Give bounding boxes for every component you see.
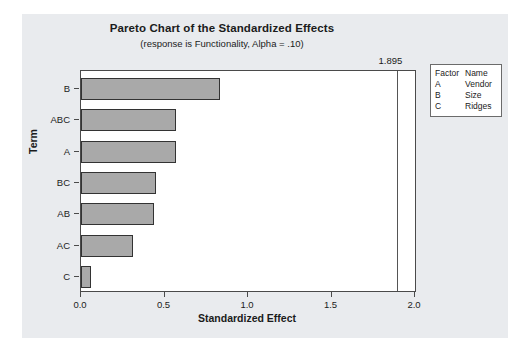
x-axis-tick bbox=[414, 292, 415, 297]
x-axis-tick bbox=[331, 292, 332, 297]
legend-name-A: Vendor bbox=[465, 79, 497, 90]
y-axis-tick bbox=[74, 119, 79, 120]
y-axis-tick bbox=[74, 213, 79, 214]
chart-panel: Pareto Chart of the Standardized Effects… bbox=[22, 14, 508, 338]
bar-AB bbox=[81, 203, 154, 225]
bar-row bbox=[81, 203, 415, 225]
bar-ABC bbox=[81, 109, 176, 131]
y-axis-tick-label: AB bbox=[32, 208, 70, 219]
legend: Factor Name AVendorBSizeCRidges bbox=[430, 64, 502, 117]
y-axis-tick-label: AC bbox=[32, 239, 70, 250]
x-axis-tick-label: 2.0 bbox=[407, 299, 420, 310]
legend-name-C: Ridges bbox=[465, 101, 497, 112]
legend-factor-C: C bbox=[435, 101, 465, 112]
legend-row: AVendor bbox=[435, 79, 497, 90]
x-axis-tick-label: 1.5 bbox=[324, 299, 337, 310]
legend-factor-B: B bbox=[435, 90, 465, 101]
y-axis-tick-label: ABC bbox=[32, 114, 70, 125]
bar-row bbox=[81, 172, 415, 194]
y-axis-tick-label: BC bbox=[32, 177, 70, 188]
legend-header-factor: Factor bbox=[435, 68, 465, 79]
bar-C bbox=[81, 266, 91, 288]
bar-row bbox=[81, 141, 415, 163]
x-axis-tick bbox=[80, 292, 81, 297]
plot-area bbox=[80, 70, 416, 292]
legend-header-name: Name bbox=[465, 68, 497, 79]
legend-name-B: Size bbox=[465, 90, 497, 101]
x-axis-title: Standardized Effect bbox=[80, 312, 414, 324]
bar-row bbox=[81, 266, 415, 288]
chart-subtitle: (response is Functionality, Alpha = .10) bbox=[22, 38, 422, 49]
reference-line-label: 1.895 bbox=[378, 55, 402, 66]
legend-header-row: Factor Name bbox=[435, 68, 497, 79]
x-axis-tick bbox=[247, 292, 248, 297]
bar-row bbox=[81, 78, 415, 100]
y-axis-tick bbox=[74, 88, 79, 89]
bar-BC bbox=[81, 172, 156, 194]
bar-row bbox=[81, 235, 415, 257]
legend-factor-A: A bbox=[435, 79, 465, 90]
legend-row: BSize bbox=[435, 90, 497, 101]
x-axis-tick bbox=[164, 292, 165, 297]
y-axis-tick bbox=[74, 182, 79, 183]
bar-AC bbox=[81, 235, 133, 257]
x-axis-tick-label: 0.5 bbox=[157, 299, 170, 310]
x-axis-tick-label: 1.0 bbox=[240, 299, 253, 310]
bar-row bbox=[81, 109, 415, 131]
reference-line bbox=[397, 71, 398, 291]
bar-B bbox=[81, 78, 220, 100]
y-axis-tick-label: C bbox=[32, 271, 70, 282]
bar-A bbox=[81, 141, 176, 163]
y-axis-tick bbox=[74, 276, 79, 277]
y-axis-tick-label: A bbox=[32, 145, 70, 156]
x-axis-tick-label: 0.0 bbox=[73, 299, 86, 310]
chart-title: Pareto Chart of the Standardized Effects bbox=[22, 22, 422, 34]
y-axis-tick bbox=[74, 151, 79, 152]
y-axis-tick bbox=[74, 245, 79, 246]
legend-row: CRidges bbox=[435, 101, 497, 112]
y-axis-tick-label: B bbox=[32, 82, 70, 93]
